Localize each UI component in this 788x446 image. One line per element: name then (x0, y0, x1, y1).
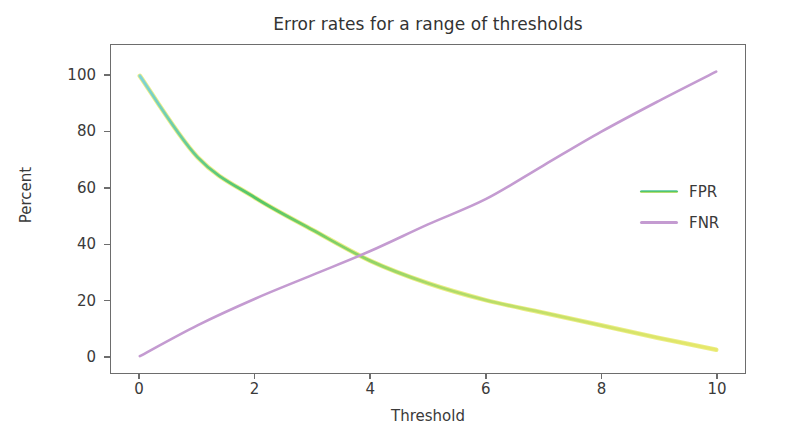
legend-label-fpr: FPR (689, 183, 717, 201)
fnr-line (140, 72, 716, 357)
legend-label-fnr: FNR (689, 214, 719, 232)
x-tick-label: 0 (119, 380, 159, 398)
chart-figure: Error rates for a range of thresholds Pe… (0, 0, 788, 446)
y-tick-label: 20 (54, 292, 96, 310)
y-tick-label: 40 (54, 235, 96, 253)
x-tick-mark (485, 373, 487, 379)
y-tick-mark (104, 74, 110, 76)
x-tick-label: 6 (466, 380, 506, 398)
y-tick-label: 0 (54, 348, 96, 366)
legend-item-fnr: FNR (640, 207, 740, 238)
x-tick-mark (254, 373, 256, 379)
y-tick-mark (104, 244, 110, 246)
x-tick-label: 2 (235, 380, 275, 398)
x-tick-label: 4 (350, 380, 390, 398)
y-tick-label: 80 (54, 122, 96, 140)
legend-swatch-fnr (640, 221, 678, 224)
x-tick-mark (716, 373, 718, 379)
x-tick-mark (369, 373, 371, 379)
y-tick-mark (104, 300, 110, 302)
y-axis-tick-group: 020406080100 (0, 0, 96, 446)
x-tick-label: 8 (581, 380, 621, 398)
legend-swatch-fpr (640, 190, 678, 193)
y-tick-mark (104, 187, 110, 189)
y-tick-mark (104, 131, 110, 133)
y-tick-mark (104, 356, 110, 358)
y-tick-label: 100 (54, 66, 96, 84)
chart-legend: FPR FNR (640, 176, 740, 238)
x-tick-mark (138, 373, 140, 379)
x-tick-mark (601, 373, 603, 379)
y-tick-label: 60 (54, 179, 96, 197)
chart-title: Error rates for a range of thresholds (110, 14, 746, 34)
x-axis-label: Threshold (110, 407, 746, 425)
legend-item-fpr: FPR (640, 176, 740, 207)
x-tick-label: 10 (697, 380, 737, 398)
